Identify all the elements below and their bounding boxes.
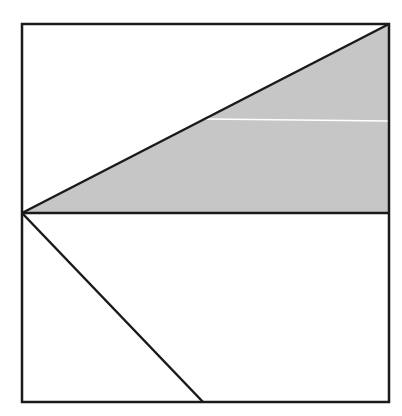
lower-diagonal-line (22, 213, 203, 402)
geometry-diagram (0, 0, 402, 416)
